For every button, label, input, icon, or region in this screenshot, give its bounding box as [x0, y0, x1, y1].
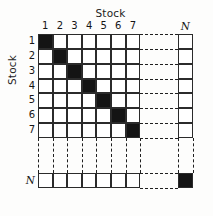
matrix-cell-rN-c2 — [53, 173, 68, 188]
column-label-4: 4 — [82, 20, 97, 31]
dash-vertical-coln-1 — [193, 138, 194, 173]
matrix-cell-r3-c2 — [53, 64, 68, 79]
matrix-cell-r5-c3 — [67, 93, 82, 108]
dash-horizontal-row-1 — [140, 49, 178, 50]
matrix-cell-r5-c5 — [96, 93, 111, 108]
column-label-7: 7 — [125, 20, 140, 31]
dash-horizontal-row-7 — [140, 138, 178, 139]
matrix-cell-r4-cN — [178, 79, 193, 94]
matrix-cell-r1-c5 — [96, 34, 111, 49]
matrix-cell-r5-c1 — [38, 93, 53, 108]
matrix-cell-r6-c4 — [82, 108, 97, 123]
matrix-cell-r1-c3 — [67, 34, 82, 49]
matrix-cell-r7-c4 — [82, 123, 97, 138]
matrix-cell-r6-c3 — [67, 108, 82, 123]
row-label-5: 5 — [22, 93, 35, 108]
matrix-cell-rN-c6 — [111, 173, 126, 188]
matrix-cell-r3-cN — [178, 64, 193, 79]
matrix-cell-r4-c6 — [111, 79, 126, 94]
matrix-cell-rN-c5 — [96, 173, 111, 188]
row-label-7: 7 — [22, 123, 35, 138]
top-axis-title: Stock — [0, 7, 213, 19]
dash-vertical-coln-0 — [178, 138, 179, 173]
matrix-cell-r2-c7 — [126, 49, 141, 64]
matrix-cell-r6-c5 — [96, 108, 111, 123]
matrix-cell-r5-cN — [178, 93, 193, 108]
matrix-cell-r2-c5 — [96, 49, 111, 64]
matrix-cell-r2-c4 — [82, 49, 97, 64]
matrix-cell-r7-c2 — [53, 123, 68, 138]
dash-vertical-col-2 — [67, 138, 68, 173]
matrix-cell-r2-cN — [178, 49, 193, 64]
matrix-cell-r1-c4 — [82, 34, 97, 49]
matrix-cell-r7-c7 — [126, 123, 141, 138]
dash-vertical-col-6 — [126, 138, 127, 173]
matrix-cell-r1-c2 — [53, 34, 68, 49]
matrix-cell-r4-c1 — [38, 79, 53, 94]
matrix-cell-r5-c4 — [82, 93, 97, 108]
dash-horizontal-row-5 — [140, 108, 178, 109]
dash-vertical-col-1 — [53, 138, 54, 173]
column-label-1: 1 — [38, 20, 53, 31]
matrix-cell-r6-c6 — [111, 108, 126, 123]
row-label-3: 3 — [22, 64, 35, 79]
matrix-cell-r5-c2 — [53, 93, 68, 108]
matrix-cell-r3-c6 — [111, 64, 126, 79]
matrix-cell-r2-c6 — [111, 49, 126, 64]
stock-matrix-figure: Stock Stock 1234567N 1234567N — [0, 0, 213, 216]
dash-horizontal-row-2 — [140, 64, 178, 65]
row-label-4: 4 — [22, 79, 35, 94]
matrix-cell-r6-c2 — [53, 108, 68, 123]
matrix-cell-r7-cN — [178, 123, 193, 138]
matrix-cell-rN-c1 — [38, 173, 53, 188]
matrix-cell-r4-c5 — [96, 79, 111, 94]
matrix-cell-rN-cN — [178, 173, 193, 188]
matrix-cell-r4-c7 — [126, 79, 141, 94]
row-label-1: 1 — [22, 34, 35, 49]
matrix-cell-r7-c6 — [111, 123, 126, 138]
dash-vertical-col-4 — [96, 138, 97, 173]
column-label-3: 3 — [67, 20, 82, 31]
matrix-cell-r1-c1 — [38, 34, 53, 49]
matrix-cell-r2-c1 — [38, 49, 53, 64]
matrix-cell-r1-c6 — [111, 34, 126, 49]
matrix-cell-r5-c6 — [111, 93, 126, 108]
matrix-cell-r1-c7 — [126, 34, 141, 49]
dash-vertical-col-3 — [82, 138, 83, 173]
row-label-2: 2 — [22, 49, 35, 64]
column-label-6: 6 — [111, 20, 126, 31]
matrix-cell-r6-c1 — [38, 108, 53, 123]
matrix-cell-r4-c2 — [53, 79, 68, 94]
dash-horizontal-row-6 — [140, 123, 178, 124]
matrix-cell-r3-c3 — [67, 64, 82, 79]
dash-vertical-col-7 — [140, 138, 141, 173]
dash-vertical-col-0 — [38, 138, 39, 173]
matrix-cell-r2-c3 — [67, 49, 82, 64]
matrix-cell-r7-c3 — [67, 123, 82, 138]
dash-vertical-col-5 — [111, 138, 112, 173]
matrix-cell-r4-c4 — [82, 79, 97, 94]
column-label-5: 5 — [96, 20, 111, 31]
matrix-cell-r3-c7 — [126, 64, 141, 79]
dash-horizontal-rown-0 — [140, 173, 178, 174]
matrix-cell-r6-c7 — [126, 108, 141, 123]
dash-horizontal-row-4 — [140, 93, 178, 94]
dash-horizontal-row-0 — [140, 34, 178, 35]
matrix-cell-r1-cN — [178, 34, 193, 49]
dash-horizontal-row-3 — [140, 79, 178, 80]
row-label-n: N — [22, 173, 35, 188]
column-label-2: 2 — [52, 20, 67, 31]
matrix-cell-r6-cN — [178, 108, 193, 123]
matrix-cell-rN-c3 — [67, 173, 82, 188]
matrix-cell-r4-c3 — [67, 79, 82, 94]
matrix-cell-rN-c7 — [126, 173, 141, 188]
matrix-cell-r5-c7 — [126, 93, 141, 108]
left-axis-title: Stock — [6, 30, 18, 110]
column-label-n: N — [178, 20, 193, 32]
matrix-cell-r3-c5 — [96, 64, 111, 79]
matrix-cell-r7-c5 — [96, 123, 111, 138]
matrix-cell-rN-c4 — [82, 173, 97, 188]
matrix-cell-r3-c4 — [82, 64, 97, 79]
dash-horizontal-rown-1 — [140, 188, 178, 189]
matrix-cell-r3-c1 — [38, 64, 53, 79]
